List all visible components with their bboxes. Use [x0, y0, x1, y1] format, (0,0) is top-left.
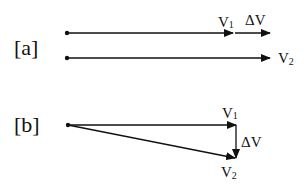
vector-diagram: [a] V1 ΔV V2 [b] V1 ΔV V2: [0, 0, 307, 189]
panel-b: [b] V1 ΔV V2: [14, 105, 262, 181]
delta-v-label-b: ΔV: [241, 134, 262, 150]
panel-a-label: [a]: [14, 35, 38, 60]
v1-label-a: V1: [218, 14, 234, 30]
v1-label-b: V1: [222, 105, 238, 121]
panel-a: [a] V1 ΔV V2: [14, 12, 294, 67]
panel-b-label: [b]: [14, 112, 40, 137]
delta-v-label-a: ΔV: [245, 12, 266, 28]
v2-label-b: V2: [221, 164, 237, 181]
v2-label-a: V2: [278, 50, 294, 67]
vector-v2-b: [68, 125, 235, 158]
